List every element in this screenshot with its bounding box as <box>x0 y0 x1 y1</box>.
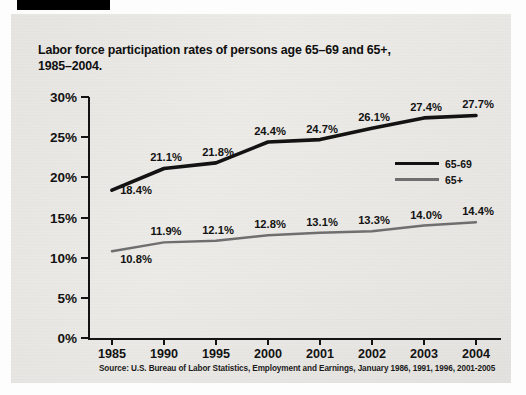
chart-title: Labor force participation rates of perso… <box>38 43 458 74</box>
x-tick-label: 2003 <box>410 347 438 361</box>
x-tick-label: 2004 <box>462 347 490 361</box>
y-tick-label: 10% <box>50 250 77 265</box>
x-tick-label: 2001 <box>306 347 334 361</box>
point-value-label: 14.0% <box>410 209 442 221</box>
x-tick-label: 1990 <box>150 347 178 361</box>
y-tick-label: 15% <box>50 210 77 225</box>
y-tick-label: 5% <box>57 290 77 305</box>
point-value-label: 10.8% <box>120 253 152 265</box>
y-tick-label: 25% <box>50 130 77 145</box>
point-value-label: 27.4% <box>410 101 442 113</box>
point-value-label: 11.9% <box>150 225 181 237</box>
x-tick-label: 1985 <box>98 347 126 361</box>
point-value-label: 13.1% <box>306 216 338 228</box>
legend-swatch-icon <box>395 162 439 166</box>
legend-label: 65+ <box>445 174 463 186</box>
point-value-label: 13.3% <box>358 214 390 226</box>
legend-label: 65-69 <box>445 158 472 170</box>
plot-area: 30%25%20%15%10%5%0% 18.4%21.1%21.8%24.4%… <box>88 97 501 340</box>
point-value-label: 14.4% <box>462 205 494 217</box>
x-tick-label: 2002 <box>358 347 386 361</box>
source-note: Source: U.S. Bureau of Labor Statistics,… <box>99 364 495 373</box>
chart-panel: Labor force participation rates of perso… <box>11 14 511 383</box>
legend-item-65+[interactable]: 65+ <box>395 173 475 186</box>
point-value-label: 18.4% <box>120 184 152 196</box>
point-value-label: 12.8% <box>254 218 286 230</box>
point-value-label: 24.7% <box>306 123 338 135</box>
black-redaction-bar <box>17 0 110 10</box>
legend-swatch-icon <box>395 178 439 181</box>
chart-legend: 65-6965+ <box>395 157 475 189</box>
point-value-label: 21.8% <box>202 146 234 158</box>
legend-item-65-69[interactable]: 65-69 <box>395 157 475 170</box>
point-value-label: 26.1% <box>358 111 390 123</box>
x-tick-label: 2000 <box>254 347 282 361</box>
y-tick-label: 30% <box>50 90 77 105</box>
point-value-label: 27.7% <box>462 98 494 110</box>
y-tick-label: 20% <box>50 170 77 185</box>
y-tick-label: 0% <box>57 331 77 346</box>
point-value-label: 24.4% <box>254 125 286 137</box>
screenshot-root: Labor force participation rates of perso… <box>0 0 526 395</box>
x-tick-label: 1995 <box>202 347 230 361</box>
point-value-label: 21.1% <box>150 151 182 163</box>
point-value-label: 12.1% <box>202 224 234 236</box>
